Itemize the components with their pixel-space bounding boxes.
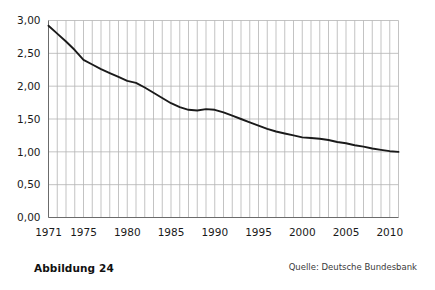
y-axis-tick-labels: 0,000,501,001,502,002,503,00 [17,14,40,223]
x-tick-label: 2000 [289,226,316,238]
y-tick-label: 1,00 [17,146,40,158]
x-tick-label: 1985 [158,226,185,238]
y-tick-label: 2,50 [17,47,40,59]
x-tick-label: 1990 [201,226,228,238]
x-tick-label: 2005 [333,226,360,238]
x-axis-tick-labels: 197119751980198519901995200020052010 [35,226,403,238]
x-tick-label: 1980 [114,226,141,238]
y-tick-label: 3,00 [17,14,40,26]
y-tick-label: 0,50 [17,178,40,190]
figure-container: 0,000,501,001,502,002,503,00 19711975198… [0,0,435,290]
y-tick-label: 0,00 [17,211,40,223]
vertical-gridlines [49,21,399,218]
x-tick-label: 1975 [70,226,97,238]
chart-plot-area: 0,000,501,001,502,002,503,00 19711975198… [0,0,435,250]
source-note: Quelle: Deutsche Bundesbank [289,262,417,272]
x-tick-label: 1971 [35,226,62,238]
figure-caption: Abbildung 24 [34,262,114,274]
y-tick-label: 1,50 [17,113,40,125]
line-chart-svg: 0,000,501,001,502,002,503,00 19711975198… [0,0,435,250]
y-tick-label: 2,00 [17,80,40,92]
x-tick-label: 2010 [376,226,403,238]
figure-footer: Abbildung 24 Quelle: Deutsche Bundesbank [0,252,435,290]
x-tick-label: 1995 [245,226,272,238]
